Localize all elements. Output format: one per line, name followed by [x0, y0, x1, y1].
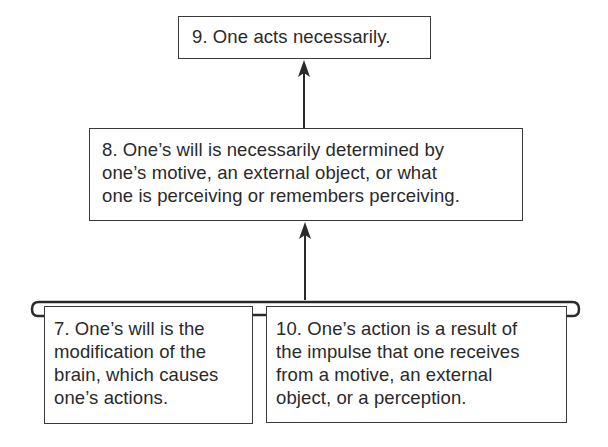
claim-8-line-3: one is perceiving or remembers perceivin…: [102, 184, 522, 207]
claim-8-line-2: one’s motive, an external object, or wha…: [102, 161, 522, 184]
premise-10-line-4: object, or a perception.: [276, 386, 566, 409]
premise-7-box: 7. One’s will is the modification of the…: [44, 306, 253, 424]
premise-7-line-4: one’s actions.: [54, 386, 252, 409]
claim-9-text: 9. One acts necessarily.: [192, 25, 430, 48]
premise-7-line-3: brain, which causes: [54, 363, 252, 386]
claim-8-line-1: 8. One’s will is necessarily determined …: [102, 138, 522, 161]
claim-9-box: 9. One acts necessarily.: [178, 16, 431, 59]
premise-10-box: 10. One’s action is a result of the impu…: [266, 306, 567, 423]
premise-10-line-1: 10. One’s action is a result of: [276, 317, 566, 340]
premise-7-line-1: 7. One’s will is the: [54, 317, 252, 340]
premise-10-line-3: from a motive, an external: [276, 363, 566, 386]
claim-8-box: 8. One’s will is necessarily determined …: [89, 128, 523, 221]
premise-7-line-2: modification of the: [54, 340, 252, 363]
premise-10-line-2: the impulse that one receives: [276, 340, 566, 363]
